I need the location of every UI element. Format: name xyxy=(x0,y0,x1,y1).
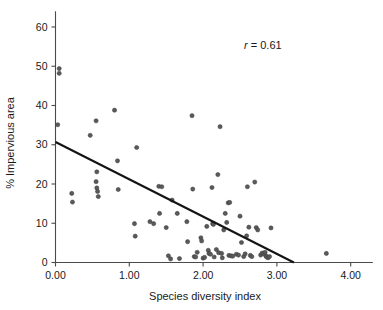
data-point xyxy=(186,240,190,244)
data-point xyxy=(239,240,243,244)
data-point xyxy=(208,252,212,256)
data-point xyxy=(185,220,189,224)
data-point xyxy=(202,255,206,259)
data-point xyxy=(96,194,100,198)
y-tick-label: 0 xyxy=(42,256,48,268)
x-axis-title: Species diversity index xyxy=(149,290,261,302)
x-tick-label: 1.00 xyxy=(119,269,140,281)
tick-marks xyxy=(52,27,351,267)
data-point xyxy=(115,159,119,163)
data-point xyxy=(324,251,328,255)
data-point xyxy=(250,255,254,259)
data-point xyxy=(88,133,92,137)
data-point xyxy=(243,252,247,256)
data-point xyxy=(236,253,240,257)
data-point xyxy=(132,222,136,226)
data-point xyxy=(220,256,224,260)
y-tick-label: 60 xyxy=(36,21,48,33)
data-point xyxy=(160,185,164,189)
plot-canvas: 0.001.002.003.004.00 0102030405060 Speci… xyxy=(0,0,383,310)
data-point xyxy=(191,187,195,191)
data-point xyxy=(157,211,161,215)
data-point xyxy=(112,108,116,112)
data-point xyxy=(267,255,271,259)
data-point xyxy=(135,145,139,149)
x-tick-labels: 0.001.002.003.004.00 xyxy=(45,269,361,281)
x-tick-label: 0.00 xyxy=(45,269,66,281)
x-tick-label: 3.00 xyxy=(267,269,288,281)
data-point xyxy=(95,189,99,193)
data-point xyxy=(200,239,204,243)
x-tick-label: 4.00 xyxy=(340,269,361,281)
data-point xyxy=(57,71,61,75)
data-point xyxy=(164,225,168,229)
data-point xyxy=(212,255,216,259)
data-point xyxy=(94,180,98,184)
y-tick-label: 20 xyxy=(36,178,48,190)
data-point xyxy=(245,185,249,189)
data-point xyxy=(253,180,257,184)
y-axis-title: % Impervious area xyxy=(4,96,16,189)
data-point xyxy=(210,185,214,189)
data-point xyxy=(205,224,209,228)
regression-line xyxy=(56,142,294,262)
trendline xyxy=(56,142,294,262)
data-point xyxy=(94,119,98,123)
scatter-plot-figure: 0.001.002.003.004.00 0102030405060 Speci… xyxy=(0,0,383,310)
data-point xyxy=(256,228,260,232)
data-point xyxy=(269,226,273,230)
data-point xyxy=(238,214,242,218)
data-point xyxy=(216,172,220,176)
data-point xyxy=(56,123,60,127)
data-point xyxy=(175,211,179,215)
data-point xyxy=(225,220,229,224)
data-point xyxy=(228,200,232,204)
data-point xyxy=(223,211,227,215)
data-point xyxy=(194,255,198,259)
data-point xyxy=(177,256,181,260)
data-point xyxy=(133,234,137,238)
data-point xyxy=(95,170,99,174)
data-point xyxy=(152,222,156,226)
correlation-value: = 0.61 xyxy=(248,39,282,51)
data-point xyxy=(169,257,173,261)
y-tick-label: 50 xyxy=(36,60,48,72)
data-point xyxy=(247,225,251,229)
data-point xyxy=(116,187,120,191)
y-tick-labels: 0102030405060 xyxy=(36,21,48,269)
data-point xyxy=(70,200,74,204)
data-point xyxy=(70,191,74,195)
data-point xyxy=(219,251,223,255)
y-tick-label: 30 xyxy=(36,138,48,150)
x-tick-label: 2.00 xyxy=(193,269,214,281)
data-point xyxy=(190,114,194,118)
y-tick-label: 10 xyxy=(36,217,48,229)
y-tick-label: 40 xyxy=(36,99,48,111)
data-point xyxy=(218,125,222,129)
data-point xyxy=(195,250,199,254)
correlation-annotation: r = 0.61 xyxy=(244,39,282,51)
data-point xyxy=(57,67,61,71)
